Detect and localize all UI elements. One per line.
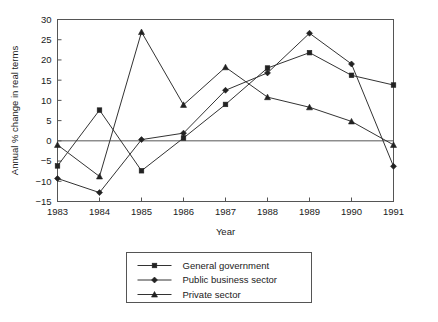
x-tick-label: 1983: [47, 206, 68, 217]
y-axis-title: Annual % change in real terms: [9, 46, 20, 176]
data-point-marker: [391, 163, 397, 169]
series-line: [58, 33, 394, 192]
data-point-marker: [55, 142, 61, 148]
legend-marker: [152, 277, 158, 283]
legend-item-label: Public business sector: [183, 274, 278, 285]
y-tick-label: 30: [41, 14, 52, 25]
data-point-marker: [97, 108, 102, 113]
y-tick-label: 10: [41, 95, 52, 106]
x-tick-label: 1986: [173, 206, 194, 217]
legend-marker: [152, 263, 157, 268]
y-tick-label: 20: [41, 54, 52, 65]
y-tick-label: 15: [41, 75, 52, 86]
data-point-marker: [307, 50, 312, 55]
x-tick-label: 1987: [215, 206, 236, 217]
y-tick-label: 5: [46, 115, 51, 126]
y-tick-label: 0: [46, 135, 51, 146]
plot-frame: [58, 20, 394, 202]
x-axis-ticks: 198319841985198619871988198919901991: [47, 198, 404, 217]
data-point-marker: [223, 102, 228, 107]
data-point-marker: [55, 164, 60, 169]
data-point-marker: [139, 168, 144, 173]
y-tick-label: −10: [35, 176, 51, 187]
x-tick-label: 1991: [383, 206, 404, 217]
data-point-marker: [55, 175, 61, 181]
data-point-marker: [391, 142, 397, 148]
data-point-marker: [265, 94, 271, 100]
x-tick-label: 1990: [341, 206, 362, 217]
data-point-marker: [349, 73, 354, 78]
y-tick-label: 25: [41, 34, 52, 45]
y-tick-label: −5: [41, 155, 52, 166]
x-tick-label: 1989: [299, 206, 320, 217]
data-point-marker: [139, 29, 145, 35]
data-point-marker: [391, 83, 396, 88]
legend-item-label: Private sector: [183, 289, 241, 300]
x-tick-label: 1985: [131, 206, 152, 217]
x-axis-title: Year: [216, 226, 235, 237]
chart-container: −15−10−5051015202530 1983198419851986198…: [0, 0, 438, 322]
chart-legend: General governmentPublic business sector…: [127, 253, 312, 303]
series-line: [58, 53, 394, 171]
plot-area-frame: [58, 20, 394, 202]
line-chart: −15−10−5051015202530 1983198419851986198…: [0, 0, 438, 322]
data-series-group: [55, 29, 397, 196]
series-public-business-sector: [55, 30, 397, 195]
x-tick-label: 1984: [89, 206, 110, 217]
x-tick-label: 1988: [257, 206, 278, 217]
data-point-marker: [223, 64, 229, 70]
legend-item-label: General government: [183, 260, 270, 271]
